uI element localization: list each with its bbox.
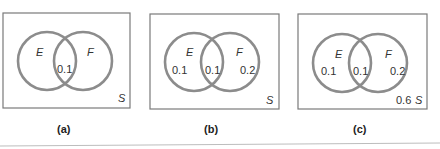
venn-diagram-panel: E F 0.1 S (a) E F 0.1 0.1 0.2 S (b) E F … [0, 0, 440, 149]
value-f-only: 0.2 [390, 65, 405, 77]
label-s: S [415, 94, 423, 106]
venn-figure-a: E F 0.1 S (a) [3, 13, 130, 135]
value-intersection: 0.1 [205, 64, 220, 76]
value-outside: 0.6 [396, 94, 411, 106]
value-intersection: 0.1 [57, 63, 72, 75]
caption-a: (a) [57, 123, 71, 135]
label-s: S [266, 94, 274, 106]
label-e: E [186, 46, 194, 58]
value-f-only: 0.2 [240, 64, 255, 76]
caption-b: (b) [204, 123, 218, 135]
value-intersection: 0.1 [353, 65, 368, 77]
label-s: S [118, 92, 126, 104]
label-e: E [36, 46, 44, 58]
label-e: E [335, 48, 343, 60]
value-e-only: 0.1 [172, 64, 187, 76]
venn-figure-b: E F 0.1 0.1 0.2 S (b) [150, 14, 279, 135]
value-e-only: 0.1 [321, 65, 336, 77]
caption-c: (c) [353, 123, 367, 135]
bottom-divider [0, 143, 440, 146]
venn-figure-c: E F 0.1 0.1 0.2 0.6 S (c) [298, 14, 427, 135]
